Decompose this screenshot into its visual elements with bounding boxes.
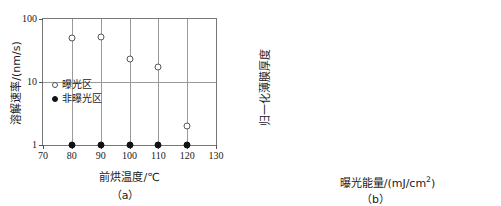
legend-a: 曝光区 非曝光区 (52, 78, 102, 106)
data-point (68, 142, 75, 149)
legend-item-unexposed: 非曝光区 (52, 92, 102, 106)
y-tick-mark (39, 82, 43, 83)
figure-container: 708090100110120130110100 曝光区 非曝光区 前烘温度/℃… (0, 0, 501, 206)
x-tick-label: 90 (96, 151, 106, 161)
data-point (184, 142, 191, 149)
x-tick-label: 130 (209, 151, 224, 161)
data-point (97, 142, 104, 149)
y-tick-label: 10 (27, 77, 37, 87)
x-axis-title-a: 前烘温度/℃ (42, 168, 217, 184)
x-axis-title-b-tail: ) (431, 177, 435, 190)
y-tick-mark (39, 19, 43, 20)
data-point (97, 34, 104, 41)
y-tick-label: 100 (22, 14, 37, 24)
data-point (126, 56, 133, 63)
x-tick-label: 80 (67, 151, 77, 161)
data-point (155, 142, 162, 149)
y-tick-mark (39, 145, 43, 146)
data-point (68, 34, 75, 41)
x-tick-label: 70 (38, 151, 48, 161)
y-axis-title-b: 归一化薄膜厚度 (256, 19, 272, 155)
y-tick-label: 1 (32, 140, 37, 150)
panel-b: 110100100000.10.20.30.40.50.60.70.80.91 … (250, 0, 501, 206)
x-tick-mark (216, 145, 217, 149)
x-tick-label: 100 (122, 151, 137, 161)
data-point (155, 64, 162, 71)
data-point (126, 142, 133, 149)
data-point (184, 123, 191, 130)
panel-a: 708090100110120130110100 曝光区 非曝光区 前烘温度/℃… (0, 0, 250, 206)
legend-label-unexposed: 非曝光区 (62, 92, 102, 106)
panel-caption-b: （b） (250, 190, 501, 206)
x-tick-label: 120 (180, 151, 195, 161)
x-tick-label: 110 (151, 151, 166, 161)
x-tick-mark (43, 145, 44, 149)
x-axis-title-b-main: 曝光能量/(mJ/cm (340, 177, 426, 190)
panel-caption-a: （a） (0, 186, 250, 202)
open-circle-icon (52, 82, 58, 88)
filled-circle-icon (52, 96, 58, 102)
legend-label-exposed: 曝光区 (62, 78, 92, 92)
x-axis-title-b: 曝光能量/(mJ/cm2) (294, 174, 481, 190)
y-axis-title-a: 溶解速率/(nm/s) (7, 19, 23, 147)
legend-item-exposed: 曝光区 (52, 78, 102, 92)
